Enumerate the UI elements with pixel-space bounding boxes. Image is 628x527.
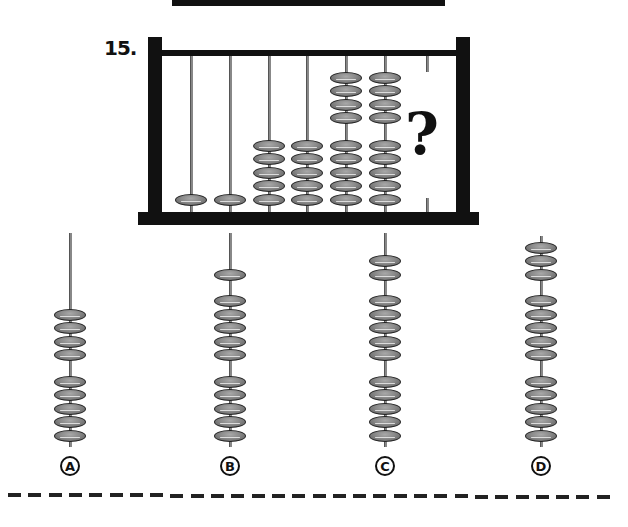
dash-segment (353, 494, 366, 498)
dash-segment (252, 494, 265, 498)
dash-segment (8, 493, 21, 497)
bead (369, 430, 401, 442)
bead (214, 416, 246, 428)
bead (369, 180, 401, 192)
bead (214, 322, 246, 334)
question-number: 15. (104, 36, 136, 60)
bead (214, 309, 246, 321)
bead (54, 376, 86, 388)
bead (54, 309, 86, 321)
bead (330, 99, 362, 111)
bead (253, 140, 285, 152)
bead (369, 376, 401, 388)
bead (214, 349, 246, 361)
dash-segment (231, 494, 244, 498)
bead (525, 255, 557, 267)
dash-segment (272, 494, 285, 498)
dash-segment (130, 493, 143, 497)
bead (369, 140, 401, 152)
bead (214, 336, 246, 348)
bead (369, 153, 401, 165)
dash-segment (191, 494, 204, 498)
bead (214, 376, 246, 388)
question-mark: ? (405, 100, 439, 168)
dash-segment (333, 494, 346, 498)
bead (330, 194, 362, 206)
dash-segment (414, 494, 427, 498)
bead (253, 180, 285, 192)
bead (330, 72, 362, 84)
bead (291, 153, 323, 165)
dash-segment (394, 494, 407, 498)
bead (369, 336, 401, 348)
bead (54, 416, 86, 428)
dash-segment (170, 494, 183, 498)
bead (369, 295, 401, 307)
bead (525, 430, 557, 442)
bead (369, 416, 401, 428)
abacus-rod (229, 56, 232, 212)
dash-segment (69, 493, 82, 497)
bead (525, 349, 557, 361)
bead (253, 194, 285, 206)
dash-segment (110, 493, 123, 497)
bead (214, 295, 246, 307)
bead (291, 180, 323, 192)
abacus-top-rail (162, 50, 456, 56)
dash-segment (516, 495, 529, 499)
bead (214, 389, 246, 401)
dash-segment (49, 493, 62, 497)
abacus-left-post (148, 37, 162, 215)
bead (330, 112, 362, 124)
dash-segment (475, 495, 488, 499)
bead (525, 403, 557, 415)
bead (291, 167, 323, 179)
bead (369, 85, 401, 97)
bead (330, 167, 362, 179)
option-label[interactable]: A (60, 456, 80, 476)
unknown-rod-bottom-stub (426, 198, 429, 212)
dash-segment (434, 494, 447, 498)
bead (54, 389, 86, 401)
unknown-rod-top-stub (426, 56, 429, 72)
bead (214, 194, 246, 206)
bead (253, 153, 285, 165)
bead (525, 269, 557, 281)
bead (214, 269, 246, 281)
bead (214, 430, 246, 442)
dash-segment (211, 494, 224, 498)
abacus-rod (190, 56, 193, 212)
dash-segment (150, 493, 163, 497)
bead (214, 403, 246, 415)
bead (369, 194, 401, 206)
bead (369, 99, 401, 111)
bead (175, 194, 207, 206)
bead (525, 376, 557, 388)
bead (291, 140, 323, 152)
bead (54, 322, 86, 334)
option-label[interactable]: B (220, 456, 240, 476)
bead (330, 140, 362, 152)
option-label[interactable]: C (375, 456, 395, 476)
bead (369, 167, 401, 179)
bead (525, 416, 557, 428)
bead (54, 403, 86, 415)
bead (369, 269, 401, 281)
bead (330, 153, 362, 165)
bead (54, 336, 86, 348)
bead (525, 242, 557, 254)
previous-puzzle-frame-edge (172, 0, 445, 6)
bead (369, 309, 401, 321)
bead (369, 349, 401, 361)
bead (369, 322, 401, 334)
dash-segment (28, 493, 41, 497)
dash-segment (597, 495, 610, 499)
dash-segment (576, 495, 589, 499)
dash-segment (536, 495, 549, 499)
bead (525, 336, 557, 348)
abacus-right-post (456, 37, 470, 215)
bead (369, 112, 401, 124)
option-label[interactable]: D (531, 456, 551, 476)
bead (369, 255, 401, 267)
dash-segment (313, 494, 326, 498)
